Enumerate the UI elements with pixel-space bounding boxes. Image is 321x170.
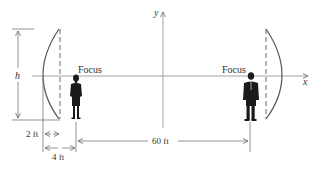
diagram-canvas: x y h 2 ft 4 ft 60 ft Focus Focus (0, 0, 321, 170)
h-label: h (15, 70, 20, 81)
left-focus-label: Focus (78, 64, 102, 75)
right-focus-label: Focus (222, 64, 246, 75)
right-reflector (266, 29, 282, 119)
x-axis-label: x (302, 76, 308, 87)
woman-figure-icon (70, 74, 82, 119)
y-axis-label: y (153, 7, 159, 18)
60ft-label: 60 ft (152, 136, 169, 146)
2ft-label: 2 ft (26, 129, 39, 139)
left-reflector (43, 29, 59, 119)
man-figure-icon (243, 72, 259, 121)
4ft-label: 4 ft (52, 152, 65, 162)
